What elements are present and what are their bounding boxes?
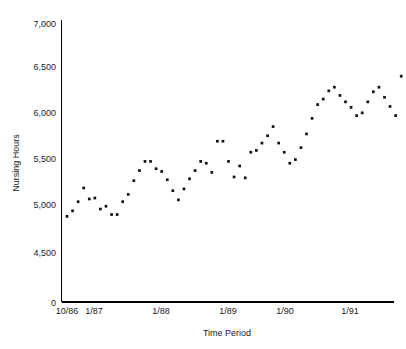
x-tick-label-191: 1/91: [341, 306, 359, 316]
data-point: [116, 213, 119, 216]
data-point: [249, 151, 252, 154]
data-point: [166, 178, 169, 181]
data-point: [205, 162, 208, 165]
y-axis-title: Nursing Hours: [11, 134, 21, 192]
data-point: [311, 117, 314, 120]
nursing-hours-chart: 7,000 6,500 6,000 5,500 5,000 4,500 0 10…: [0, 0, 406, 349]
data-point: [127, 193, 130, 196]
data-point: [121, 200, 124, 203]
data-point-group: [66, 75, 403, 218]
data-point: [71, 210, 74, 213]
data-point: [132, 179, 135, 182]
data-point: [227, 160, 230, 163]
data-point: [294, 158, 297, 161]
data-point: [350, 106, 353, 109]
data-point: [394, 114, 397, 117]
data-point: [383, 96, 386, 99]
x-axis-title: Time Period: [203, 328, 251, 338]
data-point: [400, 75, 403, 78]
data-point: [144, 160, 147, 163]
data-point: [160, 170, 163, 173]
data-point: [66, 215, 69, 218]
data-point: [233, 176, 236, 179]
data-point: [366, 101, 369, 104]
data-point: [300, 146, 303, 149]
data-point: [210, 171, 213, 174]
data-point: [194, 169, 197, 172]
data-point: [177, 199, 180, 202]
data-point: [339, 94, 342, 97]
data-point: [344, 101, 347, 104]
data-point: [261, 142, 264, 145]
y-tick-label-5000: 5,000: [33, 200, 56, 210]
data-point: [138, 169, 141, 172]
data-point: [188, 177, 191, 180]
x-tick-label-188: 1/88: [152, 306, 170, 316]
y-tick-label-5500: 5,500: [33, 154, 56, 164]
data-point: [283, 151, 286, 154]
data-point: [77, 200, 80, 203]
data-point: [199, 160, 202, 163]
data-point: [244, 177, 247, 180]
data-point: [266, 134, 269, 137]
data-point: [110, 213, 113, 216]
data-point: [389, 105, 392, 108]
data-point: [155, 167, 158, 170]
data-point: [149, 160, 152, 163]
data-point: [355, 114, 358, 117]
data-point: [316, 103, 319, 106]
data-point: [322, 98, 325, 101]
y-tick-label-7000: 7,000: [33, 19, 56, 29]
data-point: [305, 133, 308, 136]
data-point: [105, 205, 108, 208]
x-tick-label-1086: 10/86: [56, 306, 79, 316]
data-point: [99, 208, 102, 211]
data-point: [183, 188, 186, 191]
y-tick-label-6000: 6,000: [33, 108, 56, 118]
data-point: [216, 140, 219, 143]
x-tick-label-189: 1/89: [219, 306, 237, 316]
data-point: [88, 198, 91, 201]
data-point: [272, 125, 275, 128]
data-point: [372, 90, 375, 93]
y-tick-label-6500: 6,500: [33, 62, 56, 72]
data-point: [222, 140, 225, 143]
data-point: [171, 189, 174, 192]
data-point: [288, 162, 291, 165]
data-point: [94, 197, 97, 200]
y-tick-label-4500: 4,500: [33, 248, 56, 258]
data-point: [327, 90, 330, 93]
data-point: [238, 165, 241, 168]
data-point: [277, 142, 280, 145]
data-point: [361, 112, 364, 115]
data-point: [82, 187, 85, 190]
x-tick-label-187: 1/87: [85, 306, 103, 316]
data-point: [333, 86, 336, 89]
data-point: [255, 149, 258, 152]
chart-screenshot: 7,000 6,500 6,000 5,500 5,000 4,500 0 10…: [0, 0, 406, 349]
data-point: [378, 86, 381, 89]
x-tick-label-190: 1/90: [276, 306, 294, 316]
